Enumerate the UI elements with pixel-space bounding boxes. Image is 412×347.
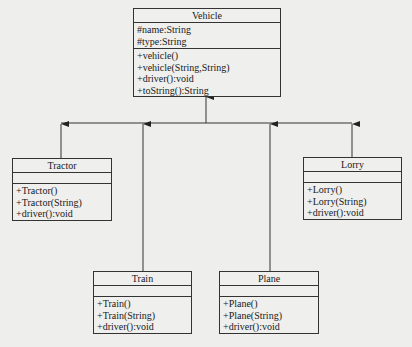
method: +vehicle(String,String) — [137, 62, 277, 74]
method: +Lorry() — [307, 184, 398, 196]
method: +Tractor(String) — [16, 197, 108, 209]
methods-section: +Plane() +Plane(String) +driver():void — [220, 297, 318, 334]
class-name: Tractor — [13, 159, 111, 173]
method: +toString():String — [137, 85, 277, 97]
methods-section: +Train() +Train(String) +driver():void — [94, 297, 191, 334]
class-name: Lorry — [304, 158, 401, 172]
method: +driver():void — [16, 208, 108, 220]
class-train: Train +Train() +Train(String) +driver():… — [93, 271, 192, 334]
methods-section: +Tractor() +Tractor(String) +driver():vo… — [13, 184, 111, 221]
attributes-section — [220, 286, 318, 297]
attributes-section: #name:String #type:String — [134, 23, 280, 49]
methods-section: +vehicle() +vehicle(String,String) +driv… — [134, 49, 280, 97]
class-name: Train — [94, 272, 191, 286]
method: +driver():void — [97, 321, 188, 333]
method: +driver():void — [223, 321, 315, 333]
method: +Lorry(String) — [307, 196, 398, 208]
method: +Train(String) — [97, 310, 188, 322]
attributes-section — [13, 173, 111, 184]
methods-section: +Lorry() +Lorry(String) +driver():void — [304, 183, 401, 220]
method: +Tractor() — [16, 185, 108, 197]
method: +driver():void — [137, 73, 277, 85]
attribute: #name:String — [137, 24, 277, 36]
method: +vehicle() — [137, 50, 277, 62]
class-lorry: Lorry +Lorry() +Lorry(String) +driver():… — [303, 157, 402, 220]
class-name: Plane — [220, 272, 318, 286]
class-vehicle: Vehicle #name:String #type:String +vehic… — [133, 8, 281, 97]
method: +driver():void — [307, 207, 398, 219]
attributes-section — [304, 172, 401, 183]
class-plane: Plane +Plane() +Plane(String) +driver():… — [219, 271, 319, 334]
method: +Plane() — [223, 298, 315, 310]
class-name: Vehicle — [134, 9, 280, 23]
attribute: #type:String — [137, 36, 277, 48]
attributes-section — [94, 286, 191, 297]
class-tractor: Tractor +Tractor() +Tractor(String) +dri… — [12, 158, 112, 221]
method: +Train() — [97, 298, 188, 310]
method: +Plane(String) — [223, 310, 315, 322]
